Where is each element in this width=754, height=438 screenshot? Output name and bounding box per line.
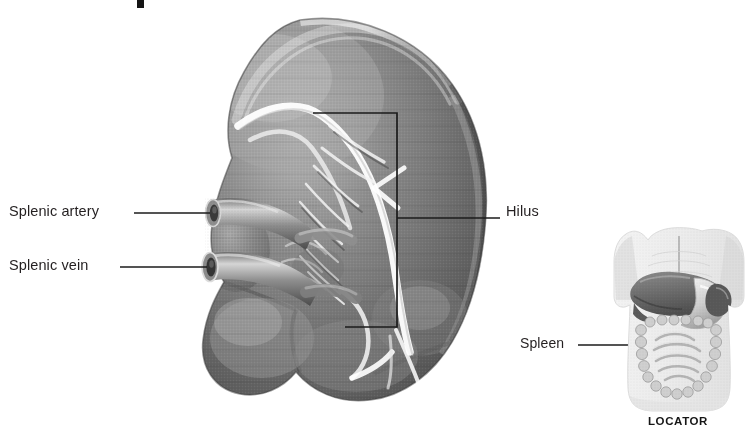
label-spleen: Spleen [520,335,564,351]
splenic-artery-stump [205,198,317,252]
label-splenic-vein: Splenic vein [9,257,88,273]
label-hilus: Hilus [506,203,539,219]
figure-canvas: Splenic artery Splenic vein Hilus Spleen… [0,0,754,438]
locator-figure [610,225,750,415]
label-splenic-artery: Splenic artery [9,203,99,219]
label-locator: LOCATOR [648,415,708,427]
spleen-illustration-svg [0,0,754,438]
